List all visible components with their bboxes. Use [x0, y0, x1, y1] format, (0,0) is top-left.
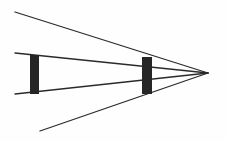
converging-rays-diagram: [0, 0, 226, 141]
diagram-canvas: [0, 0, 226, 141]
top-ray: [15, 12, 208, 73]
upper-inner-ray: [15, 53, 208, 73]
left-bar: [30, 55, 39, 94]
right-bar: [142, 57, 152, 94]
